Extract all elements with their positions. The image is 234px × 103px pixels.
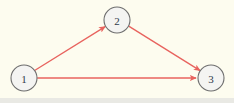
- node-3-label: 3: [208, 73, 214, 85]
- directed-graph: 1 2 3: [0, 0, 234, 103]
- bottom-edge-strip: [0, 98, 234, 103]
- edge-1-to-2: [35, 27, 106, 71]
- node-2-label: 2: [114, 15, 120, 27]
- node-2[interactable]: 2: [104, 7, 130, 33]
- node-1[interactable]: 1: [11, 65, 37, 91]
- node-3[interactable]: 3: [198, 65, 224, 91]
- diagram-canvas: 1 2 3: [0, 0, 234, 103]
- node-1-label: 1: [21, 73, 27, 85]
- edge-2-to-3: [129, 26, 200, 71]
